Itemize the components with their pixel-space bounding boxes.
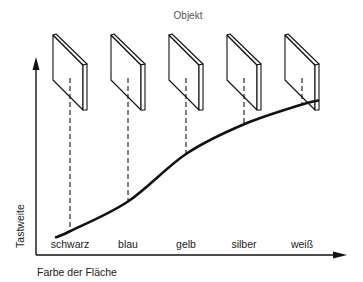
plate-side-face xyxy=(83,64,87,110)
diagram: Objekt schwarzblaugelbsilberweiß Tastwei… xyxy=(0,0,363,282)
category-label: silber xyxy=(231,238,257,250)
category-label: weiß xyxy=(290,238,313,250)
plate-side-face xyxy=(199,64,203,110)
category-label: blau xyxy=(118,238,138,250)
category-labels: schwarzblaugelbsilberweiß xyxy=(51,238,313,250)
x-axis-arrow-icon xyxy=(333,252,347,259)
plate-side-face xyxy=(315,64,319,110)
objekt-title: Objekt xyxy=(174,10,203,21)
y-axis-arrow-icon xyxy=(33,57,40,70)
plate-side-face xyxy=(257,64,261,110)
tastweite-curve xyxy=(56,101,318,238)
x-axis-label: Farbe der Fläche xyxy=(37,266,117,278)
category-label: schwarz xyxy=(51,238,90,250)
y-axis-label: Tastweite xyxy=(14,204,26,248)
category-label: gelb xyxy=(176,238,196,250)
plate-side-face xyxy=(141,64,145,110)
